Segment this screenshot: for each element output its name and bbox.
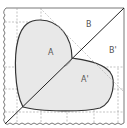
label-b-prime: B' xyxy=(109,46,117,55)
label-b: B xyxy=(86,20,92,29)
label-a-prime: A' xyxy=(81,75,89,84)
diagram-canvas: A A' B B' xyxy=(0,0,127,128)
label-a: A xyxy=(48,48,54,57)
